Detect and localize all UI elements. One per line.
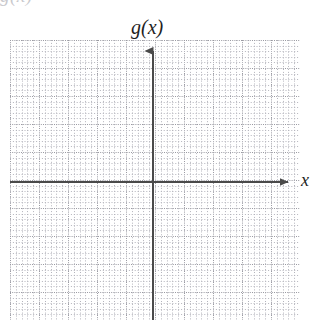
graph-figure: g(x) g(x) x bbox=[0, 0, 332, 332]
clipped-text-fragment: g(x) bbox=[0, 0, 60, 7]
grid-lines bbox=[10, 40, 300, 320]
coordinate-grid bbox=[10, 40, 300, 320]
y-axis-function-label: g(x) bbox=[131, 16, 163, 39]
x-axis-label: x bbox=[301, 170, 309, 191]
